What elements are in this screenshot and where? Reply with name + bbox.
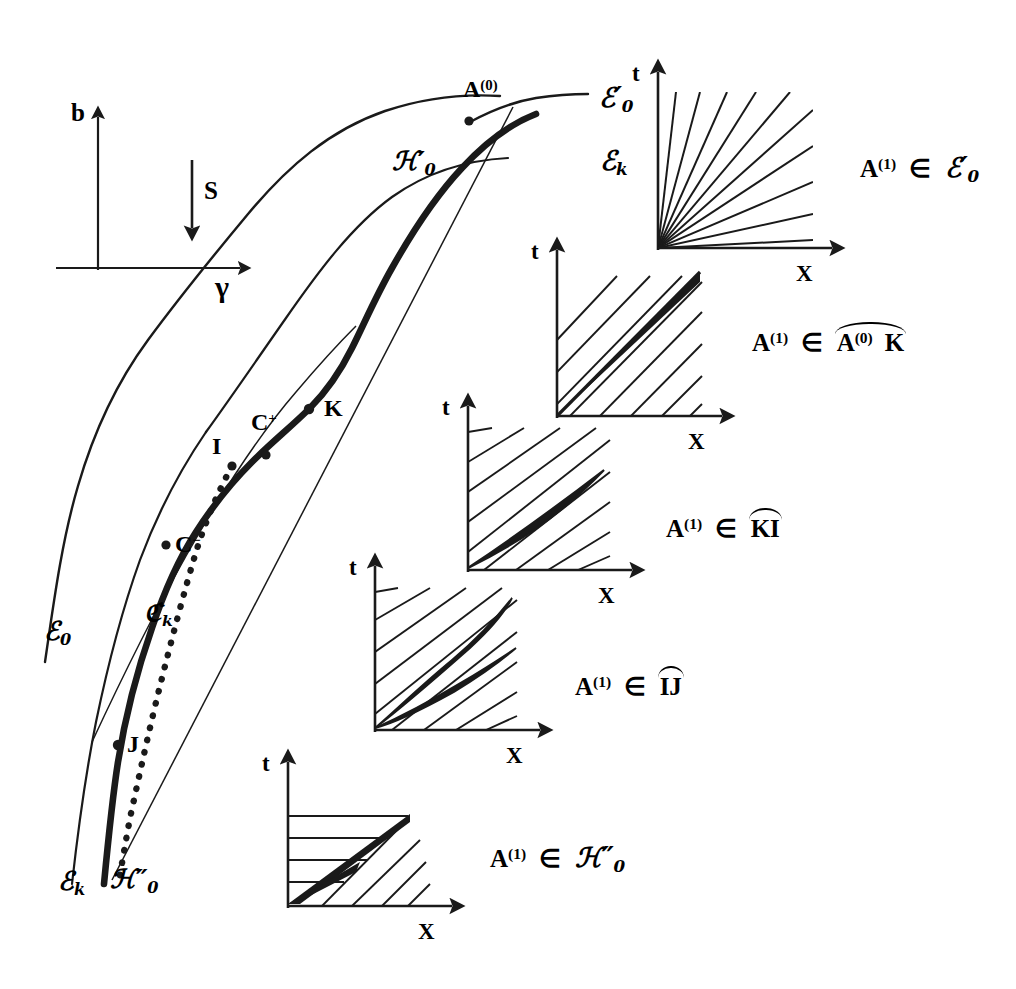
label-C-plus: C+: [251, 410, 277, 434]
label-A0: A(0): [463, 77, 498, 101]
inset-5-t-label: t: [262, 752, 270, 775]
label-Ck: ℭk: [144, 600, 173, 628]
label-T0-bottom: ℰ0: [44, 618, 71, 648]
curve-Tk-upper: [206, 158, 508, 432]
inset-1-diagram: [658, 72, 832, 250]
inset-5-caption: A(1) ∈ ℋ″0: [490, 842, 625, 876]
inset-2-caption: A(1) ∈ A(0)K: [752, 328, 904, 357]
inset-1-x-label: X: [796, 262, 813, 285]
label-K: K: [324, 396, 343, 420]
inset-4-caption: A(1) ∈ IJ: [575, 672, 682, 701]
inset-5-diagram: [288, 762, 452, 908]
shock-bifurcation-figure: [0, 0, 1016, 989]
inset-3-diagram: [468, 406, 632, 572]
inset-3-t-label: t: [442, 396, 450, 419]
label-H0-double-prime: ℋ″0: [110, 866, 159, 896]
inset-2-diagram: [557, 250, 722, 418]
axis-label-b: b: [71, 100, 85, 125]
label-Tk-top: ℰk: [600, 147, 628, 178]
chord-line-JKA: [112, 107, 513, 880]
axis-label-S: S: [204, 178, 218, 203]
label-Tk-bottom: ℰk: [58, 868, 85, 898]
axis-label-gamma: γ: [215, 272, 229, 302]
label-I: I: [212, 434, 221, 458]
curve-T0: [45, 95, 500, 662]
inset-3-x-label: X: [598, 584, 615, 607]
inset-4-diagram: [375, 566, 540, 732]
inset-2-t-label: t: [531, 240, 539, 263]
inset-5-x-label: X: [418, 920, 435, 943]
chord-line-secondary: [92, 326, 356, 742]
inset-3-caption: A(1) ∈ KI: [666, 514, 780, 543]
label-T0-prime: ℰ′0: [599, 84, 634, 115]
inset-4-t-label: t: [349, 556, 357, 579]
inset-1-caption: A(1) ∈ ℰ′0: [860, 152, 979, 186]
label-H0-prime: ℋ′0: [392, 148, 436, 178]
inset-1-t-label: t: [632, 62, 640, 85]
curve-H0-prime-thick: [104, 114, 536, 884]
label-J: J: [127, 732, 139, 756]
label-C-minus: C−: [175, 532, 201, 556]
inset-4-x-label: X: [506, 744, 523, 767]
inset-2-x-label: X: [688, 430, 705, 453]
